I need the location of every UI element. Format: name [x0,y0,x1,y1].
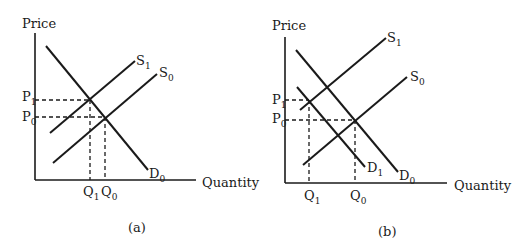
panel-a: Price Quantity D0 S1 S0 P1 P0 Q1 Q0 (a) [22,16,260,235]
caption-b: (b) [378,224,396,239]
s1-label-b: S1 [387,30,402,48]
d0-label-a: D0 [149,166,165,184]
panel-b: Price Quantity D0 D1 S1 S0 P1 P0 Q1 Q0 (… [272,18,512,239]
s0-label-a: S0 [159,65,174,83]
demand-curve-d0-a [46,46,148,170]
price-axis-label-a: Price [22,16,56,31]
q1-label-b: Q1 [304,188,320,206]
quantity-axis-label-a: Quantity [202,175,260,190]
quantity-axis-label-b: Quantity [454,178,512,193]
d1-label-b: D1 [367,160,383,178]
caption-a: (a) [128,220,146,235]
supply-curve-s1-b [300,38,386,110]
supply-demand-diagrams: Price Quantity D0 S1 S0 P1 P0 Q1 Q0 (a) … [0,0,523,248]
supply-curve-s1-a [50,61,135,133]
s1-label-a: S1 [136,53,151,71]
s0-label-b: S0 [410,69,425,87]
q1-label-a: Q1 [83,184,99,202]
demand-curve-d0-b [296,50,398,172]
q0-label-a: Q0 [101,184,118,202]
price-axis-label-b: Price [272,18,306,33]
q0-label-b: Q0 [350,188,367,206]
